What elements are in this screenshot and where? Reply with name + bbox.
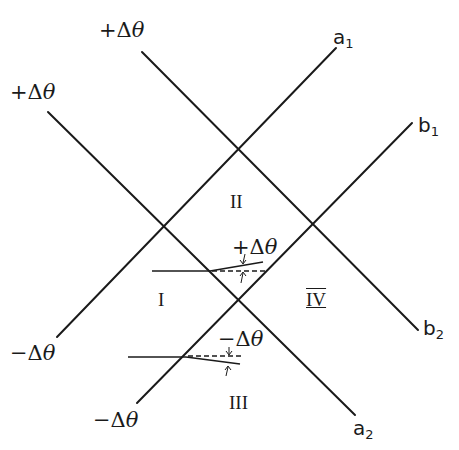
- characteristic-line-plus-to-b2: [142, 52, 418, 330]
- delta-symbol: Δ: [117, 18, 132, 42]
- upper-deflected-ray: [210, 262, 263, 271]
- theta-symbol: θ: [43, 80, 56, 104]
- characteristic-line-plus-to-a2: [48, 112, 355, 415]
- label-b1: b1: [418, 115, 439, 138]
- theta-symbol: θ: [265, 235, 278, 259]
- diagram-canvas: [0, 0, 459, 450]
- delta-symbol: Δ: [236, 327, 251, 351]
- subscript: 2: [365, 427, 373, 442]
- region-label-I: I: [158, 290, 164, 309]
- label-b2: b2: [423, 318, 444, 341]
- delta-symbol: Δ: [28, 80, 43, 104]
- theta-symbol: θ: [251, 327, 264, 351]
- letter: b: [418, 113, 431, 137]
- lower-deflection: [128, 347, 242, 376]
- delta-symbol: Δ: [28, 341, 43, 365]
- label-minus-delta-theta-bottom: −Δθ: [93, 410, 138, 431]
- theta-symbol: θ: [132, 18, 145, 42]
- label-plus-delta-theta-top: +Δθ: [99, 20, 144, 41]
- label-plus-delta-theta-left: +Δθ: [10, 82, 55, 103]
- letter: a: [353, 416, 365, 440]
- region-label-III: III: [229, 393, 248, 412]
- letter: b: [423, 316, 436, 340]
- sign: −: [93, 408, 111, 432]
- label-lower-deflection-minus-delta-theta: −Δθ: [218, 329, 263, 350]
- characteristic-line-minus-to-a1: [57, 48, 336, 337]
- letter: a: [333, 25, 345, 49]
- sign: +: [232, 235, 250, 259]
- sign: +: [10, 80, 28, 104]
- region-label-II: II: [230, 192, 243, 211]
- label-minus-delta-theta-left: −Δθ: [10, 343, 55, 364]
- characteristic-line-minus-to-b1: [137, 123, 412, 403]
- theta-symbol: θ: [126, 408, 139, 432]
- region-label-IV: IV: [306, 290, 326, 309]
- subscript: 2: [436, 327, 444, 342]
- theta-symbol: θ: [43, 341, 56, 365]
- label-a1: a1: [333, 27, 354, 50]
- sign: +: [99, 18, 117, 42]
- sign: −: [218, 327, 236, 351]
- sign: −: [10, 341, 28, 365]
- label-upper-deflection-plus-delta-theta: +Δθ: [232, 237, 277, 258]
- subscript: 1: [431, 124, 439, 139]
- lower-deflected-ray: [186, 357, 240, 364]
- delta-symbol: Δ: [111, 408, 126, 432]
- subscript: 1: [345, 36, 353, 51]
- delta-symbol: Δ: [250, 235, 265, 259]
- label-a2: a2: [353, 418, 374, 441]
